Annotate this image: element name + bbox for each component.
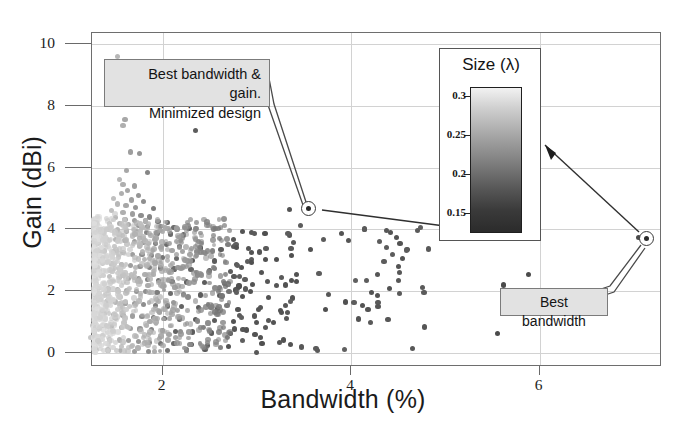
- scatter-point: [91, 313, 96, 318]
- scatter-point: [165, 303, 170, 308]
- scatter-point: [180, 249, 185, 254]
- x-tick-label: 2: [147, 376, 177, 394]
- scatter-point: [116, 235, 122, 241]
- annotation-line-1: Best bandwidth: [507, 293, 601, 330]
- scatter-point: [242, 277, 247, 282]
- scatter-point: [420, 285, 425, 290]
- scatter-point: [132, 239, 137, 244]
- scatter-point: [119, 191, 124, 196]
- scatter-point: [92, 276, 98, 282]
- scatter-point: [163, 266, 168, 271]
- scatter-point: [141, 240, 146, 245]
- scatter-point: [91, 314, 97, 320]
- scatter-point: [147, 256, 152, 261]
- scatter-point: [96, 275, 101, 280]
- scatter-point: [132, 183, 137, 188]
- scatter-point: [112, 314, 118, 320]
- scatter-point: [93, 252, 98, 257]
- scatter-point: [183, 244, 189, 250]
- scatter-point: [157, 336, 162, 341]
- scatter-point: [187, 342, 192, 347]
- scatter-point: [210, 305, 215, 310]
- scatter-point: [265, 279, 270, 284]
- scatter-point: [100, 314, 106, 320]
- scatter-point: [92, 232, 97, 237]
- scatter-point: [97, 234, 103, 240]
- scatter-point: [283, 303, 288, 308]
- scatter-point: [339, 231, 344, 236]
- scatter-point: [113, 299, 118, 304]
- scatter-point: [91, 327, 97, 333]
- scatter-point: [222, 281, 227, 286]
- annotation-best-bandwidth[interactable]: Best bandwidth: [500, 288, 608, 316]
- scatter-point: [108, 338, 113, 343]
- scatter-point: [168, 231, 173, 236]
- scatter-point: [136, 223, 141, 228]
- scatter-point: [375, 272, 380, 277]
- scatter-point: [176, 276, 181, 281]
- scatter-point: [127, 286, 132, 291]
- scatter-point: [102, 293, 107, 298]
- scatter-point: [193, 236, 198, 241]
- scatter-point: [165, 247, 170, 252]
- scatter-point: [184, 279, 189, 284]
- scatter-point: [102, 300, 107, 305]
- scatter-point: [218, 273, 224, 279]
- scatter-point: [92, 220, 97, 225]
- scatter-point: [91, 325, 97, 331]
- scatter-point: [198, 341, 203, 346]
- marker-best-bandwidth[interactable]: [639, 231, 654, 246]
- scatter-point: [91, 221, 96, 226]
- scatter-point: [117, 221, 122, 226]
- scatter-point: [123, 224, 128, 229]
- scatter-point: [122, 270, 127, 275]
- scatter-point: [135, 240, 140, 245]
- scatter-point: [234, 262, 239, 267]
- scatter-point: [112, 322, 117, 327]
- scatter-point: [109, 216, 114, 221]
- scatter-point: [108, 281, 113, 286]
- scatter-point: [103, 254, 109, 260]
- scatter-point: [501, 282, 506, 287]
- scatter-point: [146, 246, 151, 251]
- scatter-point: [126, 222, 131, 227]
- scatter-point: [122, 217, 127, 222]
- annotation-best-bandwidth-and-gain[interactable]: Best bandwidth & gain. Minimized design: [104, 59, 270, 107]
- scatter-point: [110, 278, 115, 283]
- scatter-point: [258, 305, 263, 310]
- scatter-point: [97, 246, 103, 252]
- scatter-point: [92, 302, 98, 308]
- scatter-point: [95, 265, 100, 270]
- scatter-point: [99, 245, 104, 250]
- scatter-point: [193, 128, 198, 133]
- scatter-point: [92, 265, 97, 270]
- scatter-point: [130, 211, 135, 216]
- scatter-point: [93, 282, 98, 287]
- scatter-point: [220, 320, 225, 325]
- scatter-point: [137, 151, 142, 156]
- scatter-point: [192, 230, 197, 235]
- scatter-point: [132, 218, 137, 223]
- scatter-point: [222, 223, 227, 228]
- scatter-point: [189, 260, 194, 265]
- scatter-point: [92, 329, 98, 335]
- scatter-point: [137, 232, 142, 237]
- scatter-point: [122, 300, 127, 305]
- scatter-point: [279, 275, 284, 280]
- scatter-point: [133, 303, 138, 308]
- scatter-point: [151, 315, 156, 320]
- scatter-point: [96, 261, 101, 266]
- scatter-point: [205, 320, 211, 326]
- scatter-point: [92, 260, 97, 265]
- scatter-point: [220, 253, 225, 258]
- scatter-point: [92, 292, 97, 297]
- scatter-point: [198, 245, 203, 250]
- scatter-point: [93, 325, 98, 330]
- scatter-point: [147, 300, 152, 305]
- scatter-point: [231, 274, 236, 279]
- scatter-point: [147, 340, 152, 345]
- scatter-point: [115, 318, 120, 323]
- scatter-point: [360, 303, 365, 308]
- scatter-point: [96, 338, 102, 344]
- marker-best-bandwidth-and-gain[interactable]: [301, 201, 316, 216]
